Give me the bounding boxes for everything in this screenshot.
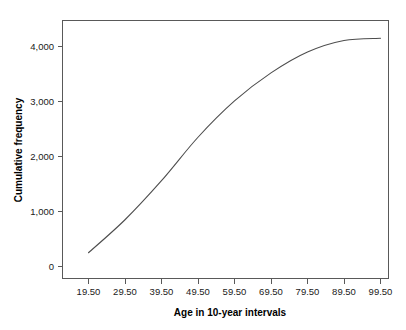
x-tick-label-99-50: 99.50 xyxy=(369,286,393,297)
x-tick-label-89-50: 89.50 xyxy=(332,286,356,297)
y-tick-label-0: 0 xyxy=(49,261,54,272)
x-tick-label-39-50: 39.50 xyxy=(150,286,174,297)
x-tick-label-59-50: 59.50 xyxy=(223,286,247,297)
y-tick-label-1000: 1,000 xyxy=(30,206,54,217)
chart-canvas: 4,000 3,000 2,000 1,000 0 19.50 29.50 39… xyxy=(0,0,406,330)
y-tick-label-2000: 2,000 xyxy=(30,151,54,162)
x-tick-label-19-50: 19.50 xyxy=(77,286,101,297)
y-axis-tick-labels: 4,000 3,000 2,000 1,000 0 xyxy=(30,41,54,272)
plot-area-frame xyxy=(63,21,389,279)
y-axis-title: Cumulative frequency xyxy=(13,97,24,202)
x-tick-label-69-50: 69.50 xyxy=(259,286,283,297)
cumulative-frequency-chart: 4,000 3,000 2,000 1,000 0 19.50 29.50 39… xyxy=(0,0,406,330)
x-tick-label-79-50: 79.50 xyxy=(296,286,320,297)
x-axis-title: Age in 10-year intervals xyxy=(174,307,287,318)
cumulative-frequency-curve xyxy=(89,38,381,253)
y-axis-ticks xyxy=(58,47,63,267)
x-axis-tick-labels: 19.50 29.50 39.50 49.50 59.50 69.50 79.5… xyxy=(77,286,393,297)
x-tick-label-29-50: 29.50 xyxy=(113,286,137,297)
y-tick-label-3000: 3,000 xyxy=(30,96,54,107)
x-axis-ticks xyxy=(89,279,381,284)
y-tick-label-4000: 4,000 xyxy=(30,41,54,52)
x-tick-label-49-50: 49.50 xyxy=(186,286,210,297)
